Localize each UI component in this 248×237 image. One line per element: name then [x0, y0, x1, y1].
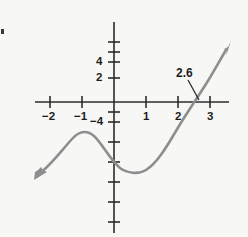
- graph-figure: −2 −1 1 2 3 4 2 −4 2.6: [0, 0, 248, 237]
- y-tick-label-2: 2: [96, 72, 102, 84]
- y-tick-label--4: −4: [90, 116, 103, 128]
- x-tick-label--1: −1: [74, 111, 87, 123]
- root-callout-leader-line: [188, 80, 199, 100]
- y-tick-label-4: 4: [96, 56, 102, 68]
- root-callout-label: 2.6: [176, 67, 193, 79]
- x-tick-label-1: 1: [143, 111, 149, 123]
- cubic-curve: [39, 50, 226, 174]
- x-tick-label-2: 2: [175, 111, 181, 123]
- x-tick-label-3: 3: [207, 111, 213, 123]
- x-tick-label--2: −2: [42, 111, 55, 123]
